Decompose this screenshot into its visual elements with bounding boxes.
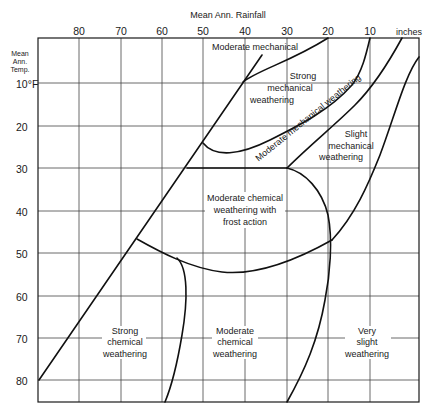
region-strong-mechanical: Strong mechanical weathering: [249, 71, 316, 105]
region-label-line: chemical: [217, 337, 253, 347]
y-axis-title-line-2: Ann.: [13, 58, 27, 65]
region-label-line: weathering: [344, 349, 389, 359]
y-tick-70: 70: [16, 333, 28, 345]
region-moderate-mechanical: Moderate mechanical: [212, 42, 298, 52]
region-label-line: weathering: [318, 152, 363, 162]
region-moderate-chemical-frost: Moderate chemical weathering with frost …: [205, 192, 285, 228]
x-tick-50: 50: [197, 25, 209, 37]
y-tick-50: 50: [16, 248, 28, 260]
y-axis-title-line-1: Mean: [11, 50, 29, 57]
y-tick-30: 30: [16, 163, 28, 175]
region-moderate-chemical: Moderate chemical weathering: [212, 326, 258, 359]
y-tick-60: 60: [16, 291, 28, 303]
region-strong-chemical: Strong chemical weathering: [102, 326, 147, 359]
y-tick-40: 40: [16, 206, 28, 218]
weathering-regions-diagram: Mean Ann. Rainfall 80 70 60 50 40 30 20 …: [0, 0, 429, 413]
region-label-line: slight: [356, 337, 378, 347]
region-label-line: chemical: [107, 337, 143, 347]
region-label-line: Strong: [112, 326, 139, 336]
y-axis-title-line-3: Temp.: [10, 66, 29, 74]
region-label-line: weathering: [212, 349, 257, 359]
region-label-line: mechanical: [328, 141, 374, 151]
x-axis-title: Mean Ann. Rainfall: [190, 10, 266, 20]
region-label-line: frost action: [223, 217, 267, 227]
region-slight-mechanical: Slight mechanical weathering: [318, 129, 374, 162]
x-unit-label: inches: [396, 27, 423, 37]
region-label-line: mechanical: [267, 83, 313, 93]
region-very-slight: Very slight weathering: [344, 326, 391, 359]
x-tick-10: 10: [364, 25, 376, 37]
y-tick-80: 80: [16, 375, 28, 387]
region-label-line: Moderate: [216, 326, 254, 336]
x-tick-40: 40: [239, 25, 251, 37]
region-label-line: weathering with: [213, 205, 277, 215]
x-tick-20: 20: [322, 25, 334, 37]
y-tick-10: 10°F: [16, 78, 38, 90]
region-label-line: weathering: [102, 349, 147, 359]
x-tick-70: 70: [115, 25, 127, 37]
region-label-line: Moderate mechanical: [212, 42, 298, 52]
region-label-line: Slight: [345, 129, 368, 139]
y-tick-20: 20: [16, 121, 28, 133]
region-label-line: Very: [358, 326, 377, 336]
x-tick-80: 80: [73, 25, 85, 37]
region-label-line: Strong: [290, 71, 317, 81]
region-label-line: weathering: [249, 95, 294, 105]
region-label-line: Moderate chemical: [207, 193, 283, 203]
x-tick-60: 60: [156, 25, 168, 37]
x-tick-30: 30: [281, 25, 293, 37]
